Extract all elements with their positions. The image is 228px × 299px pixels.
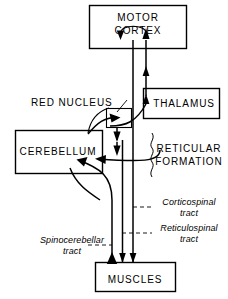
reticular-formation-brace <box>151 133 153 177</box>
motor-pathways-diagram: MOTOR CORTEX THALAMUS CEREBELLUM RED NUC… <box>0 0 228 299</box>
corticospinal-label-line1: Corticospinal <box>162 197 216 207</box>
reticular-formation-label-line2: FORMATION <box>155 156 222 167</box>
reticulospinal-label-line1: Reticulospinal <box>160 223 218 233</box>
red-nucleus-label: RED NUCLEUS <box>31 97 113 108</box>
cerebellum-label: CEREBELLUM <box>20 146 97 157</box>
reticular-formation-label-line1: RETICULAR <box>157 143 222 154</box>
reticulospinal-label-line2: tract <box>180 234 198 244</box>
rubrospinal-arrowhead-upper <box>113 132 120 143</box>
corticospinal-arrowhead-muscles <box>130 253 137 263</box>
diagram-canvas: MOTOR CORTEX THALAMUS CEREBELLUM RED NUC… <box>0 0 228 299</box>
reticulospinal-arrowhead-muscles <box>119 253 126 263</box>
spinocerebellar-label-line2: tract <box>63 246 81 256</box>
thalamus-label: THALAMUS <box>153 98 215 109</box>
thalamocortical-arrowhead-mid <box>143 66 150 76</box>
spinocerebellar-arrowhead-muscles <box>107 252 117 264</box>
muscles-label: MUSCLES <box>108 274 163 285</box>
corticospinal-label-line2: tract <box>180 208 198 218</box>
spinocerebellar-label-line1: Spinocerebellar <box>40 235 105 245</box>
motor-cortex-label-line2: CORTEX <box>115 25 162 36</box>
motor-cortex-label-line1: MOTOR <box>117 12 159 23</box>
cortex-to-rednucleus-leader <box>88 108 109 133</box>
